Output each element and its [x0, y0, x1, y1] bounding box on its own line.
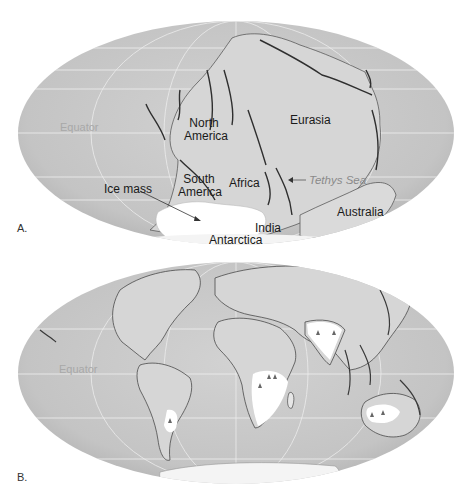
label-north-america-line2: America: [184, 130, 224, 143]
panel-letter-b: B.: [17, 471, 27, 483]
equator-label: Equator: [59, 363, 98, 376]
madagascar: [288, 392, 294, 408]
label-ice-mass: Ice mass: [104, 183, 152, 196]
equator-label: Equator: [60, 121, 99, 134]
label-south-america-line2: America: [178, 186, 220, 199]
map-panel-a: Equator North America Eurasia South Amer…: [0, 0, 469, 250]
label-africa: Africa: [229, 177, 260, 190]
label-australia: Australia: [337, 206, 384, 219]
label-antarctica: Antarctica: [209, 234, 262, 247]
map-panel-b: Equator B.: [0, 250, 469, 499]
panel-letter-a: A.: [17, 222, 27, 234]
antarctica: [160, 463, 340, 499]
label-north-america: North America: [184, 117, 224, 143]
label-tethys-sea: Tethys Sea: [309, 174, 366, 187]
label-south-america: South America: [178, 173, 220, 199]
label-eurasia: Eurasia: [290, 114, 331, 127]
